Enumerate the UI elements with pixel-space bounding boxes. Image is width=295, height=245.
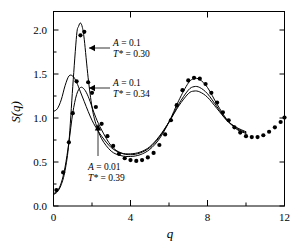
- data-point: [267, 130, 271, 134]
- x-tick-label: 12: [279, 211, 290, 223]
- data-point: [54, 188, 58, 192]
- data-point: [61, 170, 65, 174]
- data-point: [279, 120, 283, 124]
- x-tick-label: 8: [205, 211, 211, 223]
- data-point: [117, 152, 121, 156]
- data-point: [215, 100, 219, 104]
- data-point: [221, 110, 225, 114]
- data-point: [227, 118, 231, 122]
- data-point: [169, 118, 173, 122]
- y-tick-label: 2.0: [33, 24, 47, 36]
- data-point: [255, 135, 259, 139]
- data-point: [163, 132, 167, 136]
- data-point: [78, 33, 82, 37]
- data-point: [140, 158, 144, 162]
- data-point: [90, 91, 94, 95]
- data-point: [86, 80, 90, 84]
- structure-factor-chart: 0.0 0.5 1.0 1.5 2.0 0 4 8 12 q S(q): [0, 0, 295, 245]
- data-point: [238, 131, 242, 135]
- data-point: [67, 140, 71, 144]
- data-point: [82, 30, 86, 34]
- data-point: [250, 135, 254, 139]
- annotation-2-line-2: T* = 0.34: [113, 89, 150, 99]
- annotation-3-line-1: A = 0.01: [87, 162, 121, 172]
- data-point: [282, 115, 286, 119]
- data-point: [152, 151, 156, 155]
- data-point: [244, 134, 248, 138]
- data-point: [105, 134, 109, 138]
- data-point: [94, 105, 98, 109]
- annotation-3-line-2: T* = 0.39: [88, 173, 125, 183]
- y-tick-label: 1.0: [33, 112, 47, 124]
- data-point: [75, 79, 79, 83]
- y-tick-label: 0.0: [33, 200, 47, 212]
- y-axis-title: S(q): [8, 101, 23, 123]
- data-point: [198, 77, 202, 81]
- data-point: [100, 122, 104, 126]
- data-point: [175, 103, 179, 107]
- data-point: [71, 111, 75, 115]
- annotation-1-line-2: T* = 0.30: [113, 49, 150, 59]
- data-point: [146, 155, 150, 159]
- x-axis-title: q: [167, 226, 174, 241]
- annotation-2-line-1: A = 0.1: [112, 78, 141, 88]
- annotation-3: A = 0.01 T* = 0.39: [87, 162, 125, 183]
- x-tick-label: 0: [51, 211, 57, 223]
- data-point: [232, 125, 236, 129]
- data-point: [128, 158, 132, 162]
- annotation-1-line-1: A = 0.1: [112, 38, 141, 48]
- y-tick-label: 1.5: [33, 68, 47, 80]
- data-point: [186, 78, 190, 82]
- y-tick-label: 0.5: [33, 156, 47, 168]
- data-point: [134, 159, 138, 163]
- data-point: [123, 156, 127, 160]
- x-tick-label: 4: [128, 211, 134, 223]
- data-point: [157, 143, 161, 147]
- figure-container: 0.0 0.5 1.0 1.5 2.0 0 4 8 12 q S(q): [0, 0, 295, 245]
- data-point: [192, 76, 196, 80]
- data-point: [261, 133, 265, 137]
- data-point: [203, 82, 207, 86]
- data-point: [273, 125, 277, 129]
- data-point: [111, 144, 115, 148]
- data-point: [180, 88, 184, 92]
- data-point: [209, 91, 213, 95]
